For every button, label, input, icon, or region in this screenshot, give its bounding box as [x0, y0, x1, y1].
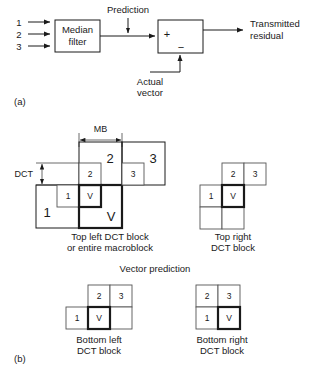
bottom-right-diagram	[196, 285, 240, 329]
bl-cell-blank	[110, 307, 132, 329]
median-filter-label-line1: Median	[62, 24, 93, 35]
macro-cell-2-label: 2	[106, 151, 113, 166]
top-left-caption-line1: Top left DCT block	[71, 231, 149, 242]
macro-cell-1-label: 1	[43, 205, 50, 220]
actual-vector-label-line1: Actual	[137, 76, 163, 87]
dct-cell-1-label: 1	[66, 191, 71, 201]
dct-dimension	[36, 163, 79, 185]
actual-vector-label-line2: vector	[137, 87, 163, 98]
output-label-line1: Transmitted	[250, 18, 300, 29]
dct-cell-current-label: V	[87, 191, 93, 201]
bl-cell-2-label: 2	[97, 291, 102, 301]
dct-dimension-label: DCT	[15, 169, 34, 179]
tr-cell-2-label: 2	[231, 169, 236, 179]
tr-cell-1-label: 1	[209, 191, 214, 201]
input-label-2: 2	[16, 29, 21, 40]
figure-root: 1 2 3 Median filter Prediction + − Actua…	[0, 0, 310, 373]
part-a-label: (a)	[14, 96, 26, 107]
adder-plus-sign: +	[164, 28, 170, 40]
bottom-right-caption-line2: DCT block	[200, 345, 244, 356]
adder-minus-sign: −	[178, 41, 184, 53]
macro-cell-3-label: 3	[149, 151, 156, 166]
output-label-line2: residual	[250, 30, 283, 41]
br-cell-1-label: 1	[205, 313, 210, 323]
br-cell-3-label: 3	[227, 291, 232, 301]
br-cell-current-label: V	[226, 313, 232, 323]
bl-cell-1-label: 1	[75, 313, 80, 323]
dct-cell-2-label: 2	[88, 169, 93, 179]
dct-cell-3-label: 3	[131, 169, 136, 179]
median-filter-label-line2: filter	[69, 36, 87, 47]
part-b-label: (b)	[14, 353, 26, 364]
vector-prediction-title: Vector prediction	[120, 263, 191, 274]
mb-dimension-label: MB	[94, 124, 108, 134]
prediction-label: Prediction	[107, 4, 149, 15]
tr-cell-blank-right	[222, 207, 244, 229]
bottom-left-caption-line1: Bottom left	[76, 334, 122, 345]
input-label-1: 1	[16, 17, 21, 28]
input-label-3: 3	[16, 41, 21, 52]
bottom-left-caption-line2: DCT block	[77, 345, 121, 356]
mb-dimension	[79, 133, 122, 147]
tr-cell-3-label: 3	[253, 169, 258, 179]
top-right-caption-line1: Top right	[215, 231, 252, 242]
figure-svg: 1 2 3 Median filter Prediction + − Actua…	[0, 0, 310, 373]
bl-cell-current-label: V	[96, 313, 102, 323]
tr-cell-blank-left	[200, 207, 222, 229]
input-arrows	[28, 22, 50, 46]
actual-vector-path	[150, 55, 180, 72]
tr-cell-current-label: V	[230, 191, 236, 201]
bottom-right-caption-line1: Bottom right	[196, 334, 248, 345]
macro-cell-current-label: V	[107, 209, 116, 224]
top-right-caption-line2: DCT block	[211, 242, 255, 253]
top-left-caption-line2: or entire macroblock	[67, 242, 153, 253]
bl-cell-3-label: 3	[119, 291, 124, 301]
br-cell-2-label: 2	[205, 291, 210, 301]
